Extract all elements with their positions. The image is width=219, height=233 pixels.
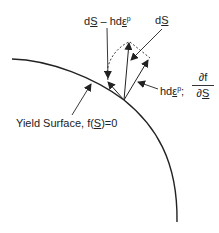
label-text: S <box>202 87 209 99</box>
label-yield-surface: Yield Surface, f(S)=0 <box>16 118 117 129</box>
label-text: )=0 <box>101 117 117 129</box>
ds-vector <box>124 43 129 100</box>
label-ds-minus-hdep: dS – hdεp <box>84 15 131 27</box>
gradient-fraction: ∂f ∂S <box>192 72 214 99</box>
label-text: S <box>161 14 168 26</box>
label-text: hd <box>160 85 172 97</box>
hdep-vector <box>124 60 148 100</box>
label-text: p <box>127 15 131 22</box>
yield-surface-curve <box>12 59 177 222</box>
leader-yield <box>72 84 91 115</box>
dashed-construction-arc <box>107 42 129 80</box>
label-text: ; <box>181 85 184 97</box>
label-text: Yield Surface, f( <box>16 117 94 129</box>
label-text: – hd <box>97 15 121 27</box>
label-hdep: hdεp; <box>160 85 184 97</box>
fraction-numerator: ∂f <box>192 72 214 85</box>
fraction-denominator: ∂S <box>192 86 214 99</box>
leader-hdep <box>138 82 158 89</box>
label-ds: dS <box>155 15 168 26</box>
